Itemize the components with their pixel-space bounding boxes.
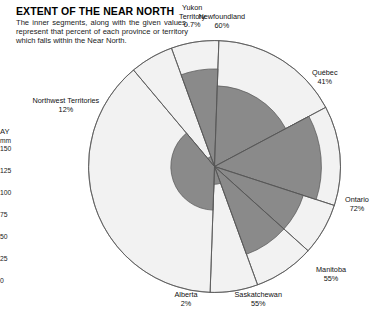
label-newfoundland: Newfoundland 60% [199,13,246,30]
label-saskatchewan-percent: 55% [235,300,282,309]
label-newfoundland-name: Newfoundland [199,12,246,21]
label-ontario-percent: 72% [345,205,369,214]
label-northwest-territories: Northwest Territories 12% [33,97,100,114]
label-alberta-name: Alberta [175,290,198,299]
label-manitoba: Manitoba 55% [316,266,346,283]
label-nwt-name: Northwest Territories [33,96,100,105]
label-ontario: Ontario 72% [345,196,369,213]
label-ontario-name: Ontario [345,195,369,204]
label-saskatchewan: Saskatchewan 55% [235,291,282,308]
label-quebec: Québec 41% [312,69,338,86]
label-quebec-percent: 41% [312,78,338,87]
label-newfoundland-percent: 60% [199,22,246,31]
figure-canvas: EXTENT OF THE NEAR NORTH The inner segme… [0,0,381,315]
label-nwt-percent: 12% [33,106,100,115]
label-alberta-percent: 2% [175,300,198,309]
label-manitoba-percent: 55% [316,275,346,284]
label-manitoba-name: Manitoba [316,265,346,274]
label-saskatchewan-name: Saskatchewan [235,290,282,299]
label-quebec-name: Québec [312,68,338,77]
label-alberta: Alberta 2% [175,291,198,308]
